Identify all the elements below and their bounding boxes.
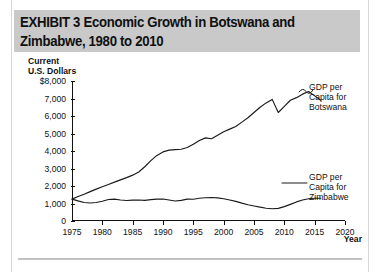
x-tick bbox=[254, 221, 255, 225]
y-tick-label: $8,000 bbox=[40, 76, 66, 86]
x-tick bbox=[224, 221, 225, 225]
series-lines bbox=[72, 81, 345, 221]
x-tick bbox=[133, 221, 134, 225]
exhibit-title-banner: EXHIBIT 3 Economic Growth in Botswana an… bbox=[14, 10, 360, 52]
series-line bbox=[72, 92, 321, 200]
y-tick-label: 2,000 bbox=[44, 181, 66, 191]
y-tick-label: 7,000 bbox=[44, 94, 66, 104]
x-tick-label: 1995 bbox=[184, 227, 203, 237]
x-tick-label: 2000 bbox=[214, 227, 233, 237]
x-tick-label: 1975 bbox=[62, 227, 81, 237]
x-tick-label: 2015 bbox=[305, 227, 324, 237]
callout-zimbabwe: GDP per Capita for Zimbabwe bbox=[309, 172, 349, 203]
y-tick-label: 5,000 bbox=[44, 129, 66, 139]
x-tick-label: 2010 bbox=[275, 227, 294, 237]
y-tick-label: 1,000 bbox=[44, 199, 66, 209]
x-tick bbox=[284, 221, 285, 225]
y-axis-title: Current U.S. Dollars bbox=[28, 56, 76, 76]
callout-botswana: GDP per Capita for Botswana bbox=[309, 82, 347, 113]
y-tick-label: 6,000 bbox=[44, 111, 66, 121]
x-tick-label: 1985 bbox=[123, 227, 142, 237]
x-tick bbox=[193, 221, 194, 225]
chart-area: Current U.S. Dollars Year 01,0002,0003,0… bbox=[14, 56, 366, 246]
series-line bbox=[72, 198, 321, 209]
y-tick-label: 3,000 bbox=[44, 164, 66, 174]
y-tick-label: 4,000 bbox=[44, 146, 66, 156]
page-right-rule bbox=[368, 0, 369, 272]
x-tick bbox=[102, 221, 103, 225]
bottom-divider bbox=[18, 258, 362, 260]
x-tick-label: 2020 bbox=[335, 227, 354, 237]
x-tick-label: 1980 bbox=[93, 227, 112, 237]
y-tick bbox=[71, 221, 75, 222]
x-tick bbox=[163, 221, 164, 225]
x-tick bbox=[345, 221, 346, 225]
exhibit-page: EXHIBIT 3 Economic Growth in Botswana an… bbox=[0, 0, 380, 272]
x-tick bbox=[315, 221, 316, 225]
x-tick-label: 1990 bbox=[153, 227, 172, 237]
plot-region: 01,0002,0003,0004,0005,0006,0007,000$8,0… bbox=[72, 81, 345, 221]
x-tick-label: 2005 bbox=[244, 227, 263, 237]
y-tick-label: 0 bbox=[61, 216, 66, 226]
exhibit-title: EXHIBIT 3 Economic Growth in Botswana an… bbox=[20, 13, 331, 51]
page-left-rule bbox=[11, 0, 12, 272]
